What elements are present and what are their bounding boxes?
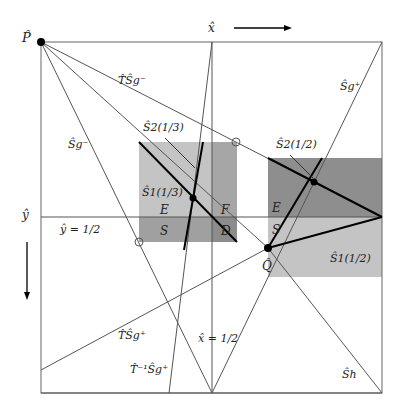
label-S1-12: Ŝ1(1/2): [330, 251, 371, 265]
label-Sh: Ŝh: [342, 367, 357, 381]
label-Sg-minus: Ŝg⁻: [68, 137, 89, 151]
label-Sg-plus: Ŝg⁺: [340, 79, 361, 93]
region-E-left: E: [159, 203, 169, 217]
region-E-right: E: [271, 201, 281, 215]
label-S2-12: Ŝ2(1/2): [276, 137, 317, 151]
y-arrow-head: [24, 292, 30, 300]
label-TSg-plus: T̂Ŝg⁺: [118, 328, 146, 342]
point-left-intersection: [190, 195, 197, 202]
diagram-canvas: P̂ Q̂ x̂ ŷ ŷ = 1/2 x̂ = 1/2 T̂Ŝg⁻ Ŝg⁻ Ŝg…: [0, 0, 403, 415]
label-x-half: x̂ = 1/2: [198, 332, 238, 345]
label-Tinv-Sg-plus: T̂⁻¹Ŝg⁺: [130, 362, 168, 376]
right-box-light-region: [268, 217, 382, 277]
label-y-half: ŷ = 1/2: [59, 223, 100, 236]
label-S2-13: Ŝ2(1/3): [143, 120, 184, 134]
region-F-left: F: [220, 203, 230, 217]
label-y-hat: ŷ: [21, 208, 29, 222]
label-x-hat: x̂: [208, 21, 215, 35]
phase-diagram: P̂ Q̂ x̂ ŷ ŷ = 1/2 x̂ = 1/2 T̂Ŝg⁻ Ŝg⁻ Ŝg…: [0, 0, 403, 415]
label-TSg-minus: T̂Ŝg⁻: [118, 73, 146, 87]
label-Q: Q̂: [262, 258, 272, 273]
region-D-left: D: [220, 224, 231, 238]
region-S-left: S: [160, 224, 168, 238]
label-P: P̂: [21, 30, 31, 45]
x-arrow-head: [284, 25, 292, 31]
region-S-right: S: [272, 223, 280, 237]
line-TSg-plus: [41, 248, 268, 370]
label-S1-13: Ŝ1(1/3): [142, 185, 183, 199]
point-Q: [264, 244, 272, 252]
point-right-intersection: [311, 179, 318, 186]
point-P: [37, 38, 45, 46]
